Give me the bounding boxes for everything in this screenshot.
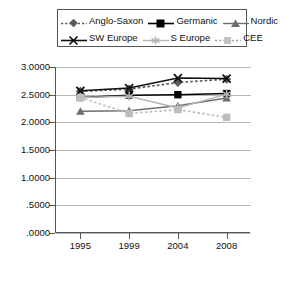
data-point-marker: [174, 106, 181, 113]
x-axis-tick: [178, 233, 179, 239]
bottom-cut-text: [0, 277, 305, 285]
y-axis-label: .0000: [4, 228, 50, 238]
germanic-legend-key: [148, 15, 174, 26]
anglo-saxon-legend-key: [61, 15, 87, 26]
x-axis-label: 2008: [204, 241, 250, 251]
data-point-marker: [174, 91, 181, 98]
y-axis-label: 1.5000: [4, 145, 50, 155]
s-europe-legend-key: [143, 32, 169, 43]
plot-area: 3.00002.50002.00001.50001.0000.5000.0000…: [55, 67, 250, 233]
nordic-legend-key: [223, 15, 249, 26]
legend-label: Germanic: [176, 16, 217, 26]
legend-label: Anglo-Saxon: [89, 16, 143, 26]
gridline: [56, 233, 251, 234]
sw-europe-legend-key: [61, 32, 87, 43]
y-axis-label: 3.0000: [4, 62, 50, 72]
y-axis-label: 2.0000: [4, 117, 50, 127]
data-point-marker: [223, 114, 230, 121]
legend-row: SW Europe S Europe: [61, 29, 243, 46]
data-point-marker: [77, 94, 84, 101]
x-axis-label: 1995: [57, 241, 103, 251]
data-point-marker: [125, 110, 132, 117]
x-axis-tick: [129, 233, 130, 239]
legend-label: SW Europe: [89, 33, 138, 43]
legend-item-s-europe[interactable]: S Europe: [143, 29, 211, 46]
x-axis-label: 1999: [106, 241, 152, 251]
legend-label: CEE: [243, 33, 263, 43]
legend-row: Anglo-Saxon Germanic N: [61, 12, 243, 29]
chart-legend: Anglo-Saxon Germanic N: [57, 9, 247, 47]
legend-label: Nordic: [251, 16, 278, 26]
legend-item-germanic[interactable]: Germanic: [148, 12, 217, 29]
y-axis-label: .5000: [4, 200, 50, 210]
legend-item-cee[interactable]: CEE: [215, 29, 263, 46]
legend-item-sw-europe[interactable]: SW Europe: [61, 29, 138, 46]
legend-label: S Europe: [171, 33, 211, 43]
cee-legend-key: [215, 32, 241, 43]
legend-item-anglo-saxon[interactable]: Anglo-Saxon: [61, 12, 143, 29]
legend-item-nordic[interactable]: Nordic: [223, 12, 278, 29]
y-axis-label: 2.5000: [4, 90, 50, 100]
series-sw-europe: [76, 74, 230, 95]
line-chart: Anglo-Saxon Germanic N: [0, 0, 305, 285]
y-axis-label: 1.0000: [4, 173, 50, 183]
x-axis-tick: [227, 233, 228, 239]
series-cee: [77, 94, 231, 121]
x-axis-tick: [80, 233, 81, 239]
series-line: [80, 94, 226, 108]
x-axis-label: 2004: [155, 241, 201, 251]
series-layer: [56, 67, 251, 233]
